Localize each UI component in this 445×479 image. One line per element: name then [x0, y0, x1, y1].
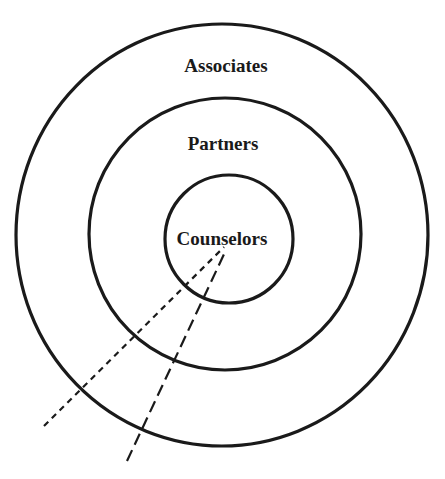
label-counselors: Counselors [177, 228, 268, 249]
concentric-diagram: Associates Partners Counselors [0, 0, 445, 479]
label-partners: Partners [188, 133, 259, 154]
dashed-line-short-dash [44, 247, 224, 426]
label-associates: Associates [184, 55, 267, 76]
